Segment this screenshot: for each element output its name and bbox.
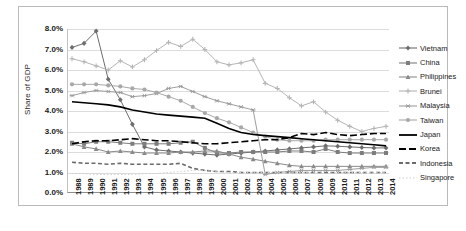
legend-item-japan[interactable]: Japan [399,127,465,141]
data-point [191,105,195,109]
data-point [155,142,159,146]
legend-item-singapore[interactable]: Singapore [399,171,465,185]
data-point [215,116,219,120]
data-point [94,89,99,92]
legend-label: Vietnam [420,44,447,53]
data-point [360,138,364,142]
data-point [178,85,183,88]
legend-item-china[interactable]: China [399,55,465,69]
figure-caption [22,222,442,231]
data-point [359,129,364,134]
data-point [227,62,232,67]
data-point [178,44,183,49]
data-point [347,124,352,129]
legend-label: Indonesia [420,159,453,168]
data-point [227,102,232,105]
data-point [130,122,135,127]
data-point [227,120,231,124]
data-point [384,124,389,129]
data-point [372,126,377,131]
data-point [130,65,135,70]
data-point [287,149,291,153]
data-point [406,118,410,122]
data-point [324,147,328,151]
data-point [167,95,171,99]
data-point [82,59,87,64]
data-point [336,150,340,154]
data-point [239,150,243,154]
data-point [154,90,158,94]
series-brunei [70,37,389,134]
data-point [179,99,183,103]
y-tick-4.0%: 4.0% [23,106,63,115]
data-point [82,82,86,86]
data-point [372,151,376,155]
data-point [347,144,352,149]
data-point [384,151,388,155]
legend-swatch-icon [399,173,417,183]
data-point [118,97,123,102]
legend-swatch-icon [399,58,417,68]
legend-item-korea[interactable]: Korea [399,142,465,156]
data-point [70,56,75,61]
data-point [106,77,111,82]
legend-swatch-icon [399,158,417,168]
legend-label: Japan [420,130,440,139]
legend-item-brunei[interactable]: Brunei [399,84,465,98]
legend-swatch-icon [399,115,417,125]
data-point [251,57,256,62]
legend-swatch-icon [399,72,417,82]
data-point [406,104,411,107]
data-point [106,90,111,93]
legend-item-indonesia[interactable]: Indonesia [399,156,465,170]
series-vietnam [70,28,389,157]
y-tick-1.0%: 1.0% [23,168,63,177]
data-point [372,138,376,142]
data-point [118,84,122,88]
data-point [82,91,87,94]
data-point [263,81,268,86]
legend-label: Taiwan [420,116,443,125]
y-tick-7.0%: 7.0% [23,45,63,54]
data-point [359,145,364,150]
data-point [130,86,134,90]
y-tick-8.0%: 8.0% [23,24,63,33]
legend-item-vietnam[interactable]: Vietnam [399,41,465,55]
legend-label: Malaysia [420,101,450,110]
legend-item-taiwan[interactable]: Taiwan [399,113,465,127]
chart-frame: Share of GDP 8.0%7.0%6.0%5.0%4.0%3.0%2.0… [18,6,448,206]
legend-swatch-icon [399,101,417,111]
legend-swatch-icon [399,130,417,140]
legend-item-malaysia[interactable]: Malaysia [399,99,465,113]
data-point [142,94,147,97]
data-point [384,138,388,142]
data-point [312,150,316,154]
data-point [70,94,75,97]
legend-item-philippines[interactable]: Philippines [399,70,465,84]
data-point [94,82,98,86]
data-point [106,83,110,87]
data-point [202,95,207,98]
legend-label: China [420,58,440,67]
data-point [215,99,220,102]
data-point [299,149,303,153]
data-point [130,95,135,98]
data-point [70,82,74,86]
data-point [118,141,122,145]
y-tick-5.0%: 5.0% [23,86,63,95]
data-point [130,142,134,146]
data-point [166,87,171,90]
legend-label: Korea [420,144,440,153]
data-point [406,46,411,51]
legend-swatch-icon [399,86,417,96]
legend-swatch-icon [399,144,417,154]
y-tick-0.0%: 0.0% [23,188,63,197]
y-tick-3.0%: 3.0% [23,127,63,136]
legend-label: Singapore [420,173,454,182]
y-tick-6.0%: 6.0% [23,65,63,74]
data-point [167,142,171,146]
data-point [263,150,267,154]
data-point [70,45,75,50]
data-point [287,139,291,143]
data-point [311,144,316,149]
